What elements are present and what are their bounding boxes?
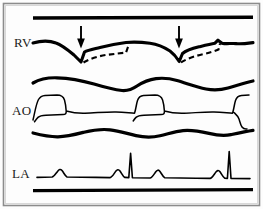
rv-label: RV: [14, 35, 32, 50]
bottom-baseline: [33, 190, 253, 191]
la-label: LA: [12, 166, 30, 181]
ao-label: AO: [12, 103, 32, 118]
top-baseline: [33, 17, 253, 18]
tracing-canvas: RV AO: [0, 0, 263, 209]
pressure-tracing-figure: RV AO: [0, 0, 263, 209]
